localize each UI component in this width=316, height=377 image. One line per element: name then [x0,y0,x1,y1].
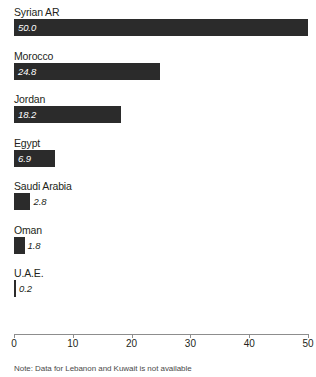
value-axis-line [14,334,308,335]
bar [14,237,25,254]
axis-tick-label: 30 [185,338,196,350]
bar-track: 50.0 [14,19,308,36]
bar-value-label: 1.8 [28,237,41,254]
bar-category-label: Saudi Arabia [14,180,72,192]
bar [14,193,30,210]
bar-category-label: Morocco [14,50,53,62]
bar-category-label: Syrian AR [14,6,59,18]
bar-row: Oman1.8 [14,224,308,268]
bar-category-label: Oman [14,224,42,236]
bar [14,280,16,297]
bar-track: 24.8 [14,63,308,80]
bar-row: Jordan18.2 [14,93,308,137]
axis-tick-label: 0 [11,338,17,350]
bar-track: 1.8 [14,237,308,254]
bar-value-label: 18.2 [18,106,36,123]
bar-track: 0.2 [14,280,308,297]
axis-tick-label: 50 [302,338,313,350]
axis-tick-label: 10 [67,338,78,350]
bar-track: 18.2 [14,106,308,123]
axis-tick-label: 20 [126,338,137,350]
bar-category-label: Jordan [14,93,45,105]
plot-area: Syrian AR50.0Morocco24.8Jordan18.2Egypt6… [14,6,308,312]
bar-row: Syrian AR50.0 [14,6,308,50]
bar-row: Egypt6.9 [14,137,308,181]
bar-row: Saudi Arabia2.8 [14,180,308,224]
bar-track: 6.9 [14,150,308,167]
chart-footnote: Note: Data for Lebanon and Kuwait is not… [14,364,192,374]
bar-row: Morocco24.8 [14,50,308,94]
bar-value-label: 2.8 [33,193,46,210]
bar-value-label: 6.9 [18,150,31,167]
bar-chart: Syrian AR50.0Morocco24.8Jordan18.2Egypt6… [0,0,316,377]
bar-value-label: 50.0 [18,19,36,36]
bar [14,19,308,36]
bar-value-label: 0.2 [19,280,32,297]
bar-value-label: 24.8 [18,63,36,80]
bar-row: U.A.E.0.2 [14,267,308,311]
bar-category-label: U.A.E. [14,267,43,279]
bar-category-label: Egypt [14,137,40,149]
bar-track: 2.8 [14,193,308,210]
value-axis-tick-labels: 01020304050 [0,338,316,352]
axis-tick-label: 40 [244,338,255,350]
